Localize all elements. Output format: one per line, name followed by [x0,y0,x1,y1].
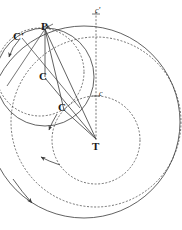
point-label-t: T [92,141,99,152]
radius-c2-to-t [64,110,96,139]
solid-circle-around-c [0,28,94,126]
geometry-figure: P C' C C T c' c [0,0,182,230]
figure-canvas [0,0,182,230]
point-label-c-lower: C [58,102,66,113]
point-label-p: P [41,21,48,32]
point-label-c-upper: C [39,71,47,82]
point-label-c-prime: C' [13,31,24,42]
chord-c-prime-through-c [22,38,80,108]
radius-c-to-t [45,78,96,139]
solid-outer-circle-around-t [0,26,180,218]
motion-arrow-lower-outer [13,179,32,203]
point-label-c-small: c [99,90,103,98]
point-label-c-small-prime: c' [95,7,100,15]
